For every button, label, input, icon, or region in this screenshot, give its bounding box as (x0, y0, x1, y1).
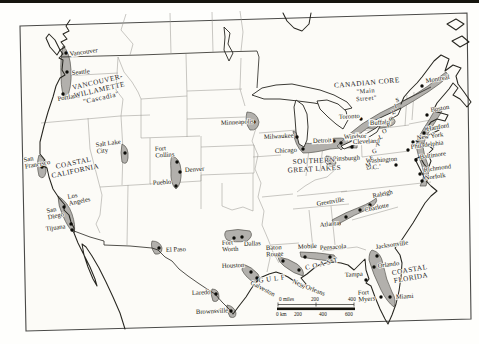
city-label-denver: Denver (185, 165, 206, 173)
city-dot-mobile (303, 255, 306, 258)
scale-km-label: 400 (319, 311, 327, 317)
city-label-baton-rouge: BatonRouge (266, 243, 284, 257)
city-dot-baton-rouge (281, 259, 284, 262)
city-label-laredo: Laredo (192, 288, 212, 296)
city-dot-windsor (339, 141, 342, 144)
city-dot-boston (425, 113, 428, 116)
city-dot-montreal (420, 84, 423, 87)
city-dot-fort-collins (175, 160, 178, 163)
city-dot-chicago (301, 147, 304, 150)
city-dot-vancouver (64, 51, 67, 54)
scale-miles-label: 200 (311, 296, 319, 302)
city-label-miami: Miami (396, 292, 414, 300)
scale-km-label: 600 (345, 311, 353, 317)
city-label-mobile: Mobile (298, 242, 318, 250)
city-dot-norfolk (420, 179, 423, 182)
city-dot-greenville (344, 215, 347, 218)
city-dot-washington-d-c- (394, 163, 397, 166)
city-dot-dallas (240, 235, 243, 238)
city-dot-baltimore (414, 158, 417, 161)
city-dot-san-diego (69, 222, 72, 225)
scale-bar-km-bar (277, 308, 355, 311)
city-label-tampa: Tampa (345, 270, 363, 278)
city-label-dallas: Dallas (244, 239, 262, 247)
city-dot-seattle (65, 70, 68, 73)
north-america-megalopolises-map: VancouverSeattlePortlandSanFranciscoLosA… (0, 0, 479, 344)
city-dot-houston (249, 270, 252, 273)
city-dot-richmond (418, 172, 421, 175)
city-dot-cleveland (350, 145, 353, 148)
scale-miles-label: 400 (348, 296, 356, 302)
city-label-pueblo: Pueblo (153, 178, 172, 186)
city-dot-new-orleans (297, 268, 300, 271)
city-dot-laredo (214, 292, 217, 295)
city-dot-los-angeles (62, 205, 65, 208)
city-dot-pueblo (174, 184, 177, 187)
city-label-el-paso: El Paso (166, 245, 187, 253)
city-label-detroit: Detroit (313, 136, 332, 144)
scale-km-label: 200 (294, 311, 302, 317)
scale-km-label: 0 km (276, 311, 287, 317)
city-label-pittsburgh: Pittsburgh (333, 154, 361, 162)
city-dot-salt-lake-city (123, 151, 126, 154)
city-dot-tampa (364, 278, 367, 281)
city-dot-detroit (332, 139, 335, 142)
city-dot-jacksonville (375, 254, 378, 257)
city-dot-milwaukee (295, 135, 298, 138)
scale-miles-label: 0 miles (279, 296, 294, 302)
city-dot-el-paso (157, 246, 160, 249)
city-dot-orlando (372, 265, 375, 268)
city-dot-philadelphia (406, 148, 409, 151)
city-dot-denver (178, 170, 181, 173)
city-dot-brownsville (229, 309, 232, 312)
city-dot-miami (388, 295, 391, 298)
city-dot-toronto (359, 117, 362, 120)
scanned-map-page: VancouverSeattlePortlandSanFranciscoLosA… (0, 0, 479, 344)
city-dot-charlotte (358, 208, 361, 211)
region-label-main-street: "MainStreet" (355, 86, 377, 102)
city-dot-fort-myers (379, 295, 382, 298)
city-label-houston: Houston (222, 261, 245, 269)
city-label-toronto: Toronto (339, 112, 361, 120)
city-dot-tijuana (70, 228, 73, 231)
city-dot-fort-worth (232, 236, 235, 239)
region-label-southern-great-lakes: SOUTHERNGREAT LAKES (287, 156, 341, 175)
city-label-chicago: Chicago (275, 146, 298, 154)
